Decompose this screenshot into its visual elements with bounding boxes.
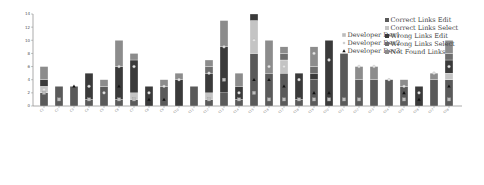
dev1-marker [447,98,450,101]
x-tick-label: C28 [442,107,449,114]
dev1-marker [222,78,225,81]
legend-swatch [385,34,389,38]
bar-segment [250,14,258,21]
bar-segment [280,47,288,54]
x-tick-label: C18 [292,107,299,114]
dev1-marker [357,98,360,101]
bar-segment [40,67,48,80]
bar-segment [115,40,123,66]
x-tick-label: C5 [99,107,105,113]
x-tick-label: C6 [114,107,120,113]
bar-segment [205,60,213,67]
bar-segment [310,67,318,74]
dev2-marker [208,72,211,75]
bar-segment [370,80,378,106]
bar-segment [400,86,408,106]
dev2-marker [433,72,436,75]
bar-segment [40,93,48,106]
dev2-marker [148,91,151,94]
x-tick-label: C20 [322,107,329,114]
dev2-marker [223,45,226,48]
bar-segment [250,21,258,54]
dev2-marker [163,85,166,88]
x-tick-label: C16 [262,107,269,114]
dev2-marker [238,91,241,94]
dev1-marker [282,98,285,101]
dev2-marker [43,88,46,91]
legend-swatch [385,18,389,22]
x-tick-label: C14 [232,107,239,114]
legend-label: Correct Links Select [391,24,459,32]
bar-segment [220,21,228,47]
x-tick-label: C11 [187,107,194,114]
x-tick-label: C15 [247,107,254,114]
bar-segment [280,53,288,60]
x-tick-label: C7 [129,107,135,113]
legend-label: Wrong Links Select [391,40,456,48]
bar-segment [145,86,153,106]
bar-segment [355,80,363,106]
bar-segment [205,73,213,93]
x-tick-label: C23 [367,107,374,114]
bar-segment [130,60,138,93]
dev1-marker [297,98,300,101]
bar-segment [325,40,333,106]
bar-segment [40,80,48,87]
dev2-marker [298,78,301,81]
legend-swatch [385,50,389,54]
dev1-marker [87,98,90,101]
x-tick-label: C3 [69,107,75,113]
x-tick-label: C22 [352,107,359,114]
stacked-bar-chart: 02468101214 C1C2C3C4C5C6C7C8C9C10C11C12C… [0,0,484,185]
bar-segment [415,86,423,106]
x-tick-label: C17 [277,107,284,114]
x-tick-label: C21 [337,107,344,114]
y-tick-label: 12 [25,25,31,30]
bar-segment [385,80,393,106]
bar-segment [220,47,228,93]
x-axis-labels: C1C2C3C4C5C6C7C8C9C10C11C12C13C14C15C16C… [39,106,450,114]
bar-segment [445,53,453,60]
x-tick-label: C19 [307,107,314,114]
bar-segment [295,73,303,99]
legend-swatch [385,42,389,46]
legend-swatch [385,26,389,30]
bar-segment [265,40,273,73]
bar-segment [100,80,108,87]
bar-segment [220,93,228,106]
dev1-marker [402,98,405,101]
dev2-marker [253,39,256,42]
x-tick-label: C9 [159,107,165,113]
dev1-marker [342,98,345,101]
dev2-marker [178,78,181,81]
dev2-marker [268,65,271,68]
legend-dev1-icon [342,33,346,37]
y-tick-label: 10 [25,38,31,43]
dev2-marker [133,65,136,68]
bar-segment [445,80,453,106]
dev2-marker [448,65,451,68]
x-tick-label: C12 [202,107,209,114]
dev2-marker [328,59,331,62]
dev2-marker [103,91,106,94]
chart-legend: Developer Dev1Developer Dev2Developer De… [342,16,458,56]
dev2-marker [283,65,286,68]
bar-segment [430,80,438,106]
dev2-marker [88,85,91,88]
dev1-marker [237,98,240,101]
legend-dev3-icon [342,49,345,52]
bar-segment [310,47,318,67]
dev2-marker [403,85,406,88]
y-tick-label: 6 [27,64,30,69]
legend-dev2-icon [343,42,346,45]
dev1-marker [57,98,60,101]
bar-segment [130,53,138,60]
bar-segment [160,86,168,106]
x-tick-label: C27 [427,107,434,114]
legend-label: Correct Links Edit [391,16,452,24]
bar-segment [310,73,318,80]
y-tick-label: 4 [27,77,30,82]
y-tick-label: 8 [27,51,30,56]
bar-segment [55,86,63,106]
bar-segment [235,73,243,86]
